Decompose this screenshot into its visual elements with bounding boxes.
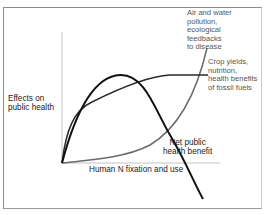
x-axis-label: Human N fixation and use — [89, 165, 183, 174]
y-axis-label: Effects on public health — [8, 94, 54, 113]
pollution-label: Air and water pollution, ecological feed… — [187, 9, 232, 52]
crop-yields-label: Crop yields, nutrition, health benefits … — [208, 58, 257, 92]
y-axis-label-line: Effects on — [8, 94, 54, 103]
net-benefit-label-line: health benefit — [163, 147, 212, 156]
y-axis-label-line: public health — [8, 103, 54, 112]
crop-yields-label-line: of fossil fuels — [208, 84, 257, 93]
net-benefit-label: Net public health benefit — [163, 138, 212, 157]
pollution-label-line: to disease — [187, 43, 232, 52]
net-benefit-curve — [62, 75, 203, 199]
net-benefit-label-line: Net public — [163, 138, 212, 147]
